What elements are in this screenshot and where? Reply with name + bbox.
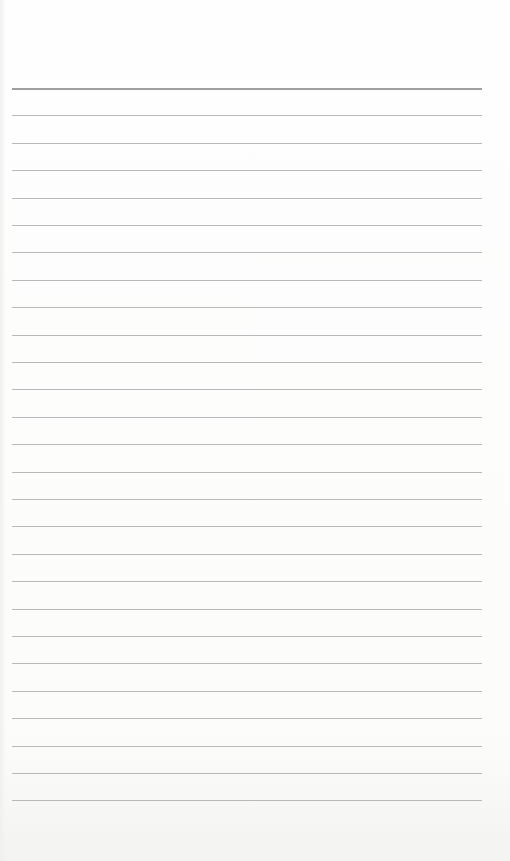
- rule-line: [12, 609, 482, 610]
- rule-line: [12, 198, 482, 199]
- rule-line: [12, 663, 482, 664]
- rule-line: [12, 444, 482, 445]
- rule-line: [12, 335, 482, 336]
- rule-line: [12, 115, 482, 116]
- rule-line: [12, 691, 482, 692]
- rule-line: [12, 280, 482, 281]
- page-edge-shadow: [0, 0, 6, 861]
- rule-line: [12, 389, 482, 390]
- rule-line: [12, 143, 482, 144]
- rule-line: [12, 718, 482, 719]
- rule-line: [12, 499, 482, 500]
- rule-line: [12, 773, 482, 774]
- rule-line: [12, 472, 482, 473]
- rule-line: [12, 636, 482, 637]
- rule-line: [12, 581, 482, 582]
- rule-line: [12, 554, 482, 555]
- header-rule-line: [12, 88, 482, 90]
- rule-line: [12, 225, 482, 226]
- rule-line: [12, 417, 482, 418]
- rule-line: [12, 526, 482, 527]
- rule-line: [12, 746, 482, 747]
- rule-line: [12, 170, 482, 171]
- rule-line: [12, 362, 482, 363]
- rule-line: [12, 307, 482, 308]
- lined-paper-sheet: [0, 0, 510, 861]
- rule-line: [12, 800, 482, 801]
- rule-line: [12, 252, 482, 253]
